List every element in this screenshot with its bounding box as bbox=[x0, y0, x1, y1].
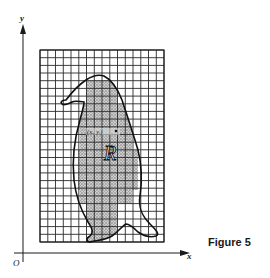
grid-lines bbox=[40, 50, 164, 242]
origin-label: O bbox=[13, 258, 20, 268]
region-label: R bbox=[103, 142, 116, 164]
y-axis-arrow-icon bbox=[20, 24, 26, 34]
x-axis-label: x bbox=[186, 251, 192, 261]
sample-point bbox=[115, 130, 118, 133]
figure-caption: Figure 5 bbox=[208, 236, 251, 248]
y-axis-label: y bbox=[19, 13, 25, 23]
point-label: (xᵢ, yᵢ) bbox=[87, 128, 102, 136]
